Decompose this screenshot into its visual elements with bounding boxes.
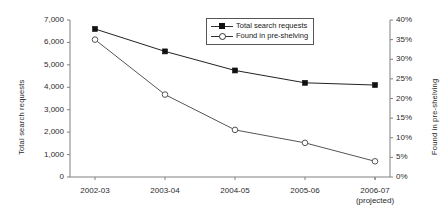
chart-container: Total search requests Found in pre-shelv… [0,0,444,219]
x-axis-tick-label: 2004-05 [220,186,249,196]
x-axis-tick-label: 2003-04 [150,186,179,196]
legend-item-total-search-requests: Total search requests [211,21,308,31]
x-axis-tick-label: 2002-03 [80,186,109,196]
chart-legend: Total search requests Found in pre-shelv… [206,18,314,45]
x-axis-tick-label: 2006-07(projected) [356,186,394,206]
legend-label-total-search-requests: Total search requests [236,21,307,31]
legend-marker-open-circle-icon [211,32,233,41]
legend-item-found-in-pre-shelving: Found in pre-shelving [211,31,308,41]
legend-label-found-in-pre-shelving: Found in pre-shelving [236,31,308,41]
x-axis-tick-label: 2005-06 [290,186,319,196]
legend-marker-filled-square-icon [211,22,233,31]
